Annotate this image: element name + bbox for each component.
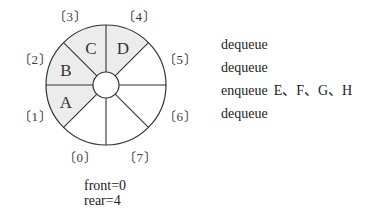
slot-label-0: 〔0〕 [63, 147, 97, 166]
rear-pointer: rear=4 [84, 193, 121, 208]
center-hub [93, 72, 119, 98]
slot-4-value: D [117, 39, 129, 58]
slot-label-4: 〔4〕 [122, 6, 156, 25]
slot-label-2: 〔2〕 [18, 49, 52, 68]
operation-item: dequeue [221, 58, 352, 81]
slot-label-6: 〔6〕 [163, 106, 197, 125]
operation-name: dequeue [221, 60, 268, 75]
slot-2-value: B [60, 61, 71, 80]
operation-item: dequeue [221, 35, 352, 58]
slot-label-1: 〔1〕 [18, 106, 52, 125]
slot-label-3: 〔3〕 [53, 6, 87, 25]
operation-name: dequeue [221, 106, 268, 121]
operation-item: enqueueE、F、G、H [221, 81, 352, 104]
front-pointer: front=0 [84, 178, 126, 193]
operations-list: dequeue dequeue enqueueE、F、G、H dequeue [221, 35, 352, 127]
operation-name: enqueue [221, 83, 268, 98]
slot-label-5: 〔5〕 [163, 49, 197, 68]
operation-args: E、F、G、H [274, 83, 353, 98]
slot-3-value: C [85, 39, 96, 58]
operation-item: dequeue [221, 104, 352, 127]
operation-name: dequeue [221, 37, 268, 52]
slot-label-7: 〔7〕 [123, 147, 157, 166]
slot-1-value: A [60, 93, 73, 112]
